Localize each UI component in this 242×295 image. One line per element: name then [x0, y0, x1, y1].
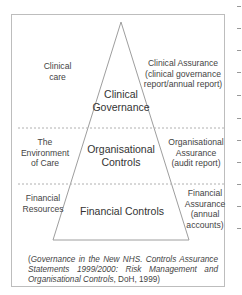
label-line: Controls [80, 156, 162, 169]
tier2-right-label: Organisational Assurance (audit report) [165, 137, 227, 169]
page-edge-mark [237, 184, 241, 185]
page-edge-mark [237, 162, 241, 163]
label-line: Assurance [165, 148, 227, 159]
tier1-center-label: Clinical Governance [86, 88, 156, 114]
label-line: Financial Controls [72, 205, 172, 218]
label-line: Financial [16, 193, 70, 204]
label-line: Resources [16, 204, 70, 215]
label-line: Organisational [80, 143, 162, 156]
page-edge-mark [237, 72, 241, 73]
page-edge-mark [237, 228, 241, 229]
label-line: Environment [16, 148, 74, 159]
label-line: (clinical governance [140, 69, 226, 80]
label-line: (audit report) [165, 158, 227, 169]
label-line: The [16, 137, 74, 148]
page-edge-mark [237, 206, 241, 207]
label-line: of Care [16, 158, 74, 169]
page-edge-mark [237, 140, 241, 141]
tier3-center-label: Financial Controls [72, 205, 172, 218]
tier1-right-label: Clinical Assurance (clinical governance … [140, 58, 226, 90]
label-line: Clinical Assurance [140, 58, 226, 69]
tier2-left-label: The Environment of Care [16, 137, 74, 169]
label-line: Clinical [86, 88, 156, 101]
tier2-center-label: Organisational Controls [80, 143, 162, 169]
label-line: Financial [182, 188, 228, 199]
label-line: Clinical [30, 61, 85, 72]
label-line: report/annual report) [140, 79, 226, 90]
page-edge-mark [237, 6, 241, 7]
tier3-left-label: Financial Resources [16, 193, 70, 214]
tier3-right-label: Financial Assurance (annual accounts) [182, 188, 228, 230]
label-line: (annual [182, 209, 228, 220]
label-line: Organisational [165, 137, 227, 148]
label-line: care [30, 72, 85, 83]
caption-source: , DoH, 1999) [114, 275, 160, 284]
label-line: accounts) [182, 220, 228, 231]
page-edge-mark [237, 50, 241, 51]
label-line: Assurance [182, 199, 228, 210]
page-edge-mark [237, 95, 241, 96]
source-caption: (Governance in the New NHS. Controls Ass… [28, 255, 218, 285]
page-edge-mark [237, 28, 241, 29]
page-edge-mark [237, 118, 241, 119]
tier1-left-label: Clinical care [30, 61, 85, 82]
label-line: Governance [86, 101, 156, 114]
